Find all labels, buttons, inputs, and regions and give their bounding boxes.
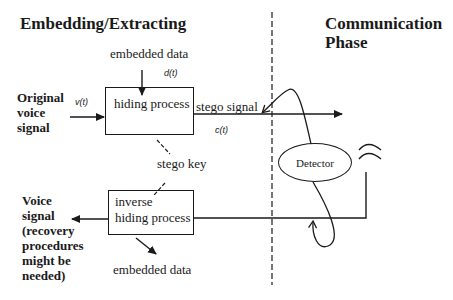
embedded-data-out-label: embedded data — [113, 262, 191, 277]
voice-out-line6: needed) — [22, 268, 65, 283]
detector-ellipse: Detector — [278, 143, 352, 182]
voice-out-line1: Voice — [22, 193, 52, 208]
inverse-label-line1: inverse — [115, 194, 153, 209]
d-t-label: d(t) — [164, 68, 178, 78]
intercept-curve-bottom — [313, 182, 334, 247]
stego-key-label: stego key — [157, 156, 206, 171]
embedding-heading: Embedding/Extracting — [20, 14, 186, 33]
original-voice-line3: signal — [17, 120, 50, 135]
original-voice-line1: Original — [17, 90, 64, 105]
return-line — [193, 172, 366, 218]
voice-out-line5: might be — [22, 253, 71, 268]
original-voice-line2: voice — [17, 105, 45, 120]
v-t-label: v(t) — [75, 97, 88, 107]
c-t-label: c(t) — [215, 125, 228, 135]
communication-heading-line1: Communication — [325, 14, 442, 33]
embedded-data-out-arrow — [136, 238, 156, 254]
inverse-label-line2: hiding process — [115, 210, 190, 225]
antenna-icon — [359, 145, 381, 160]
embedded-data-label: embedded data — [110, 46, 188, 61]
intercept-curve-top — [263, 89, 311, 144]
voice-out-line2: signal — [22, 208, 55, 223]
stego-key-link-top — [157, 140, 170, 154]
voice-out-line4: procedures — [22, 238, 84, 253]
steganography-diagram: Embedding/Extracting Communication Phase… — [0, 0, 453, 300]
stego-signal-label: stego signal — [196, 99, 258, 114]
hiding-process-box — [105, 87, 194, 135]
hiding-process-label: hiding process — [114, 96, 189, 111]
voice-out-line3: (recovery — [22, 223, 74, 238]
communication-heading-line2: Phase — [325, 33, 368, 52]
